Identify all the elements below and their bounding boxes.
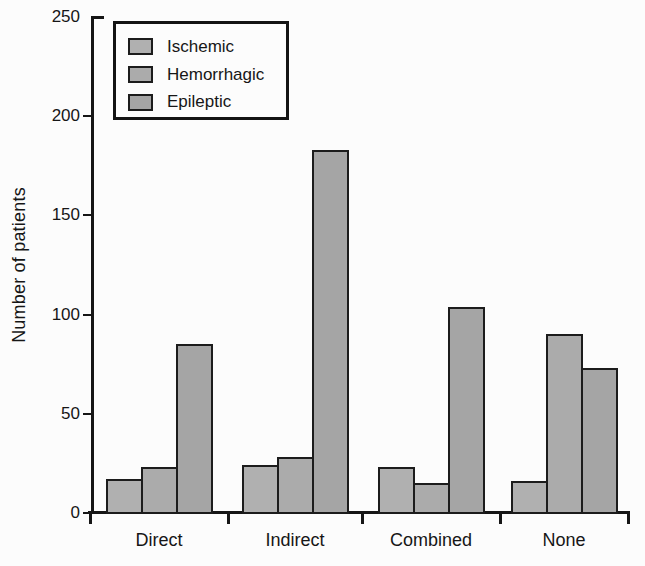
legend-label: Ischemic — [167, 37, 234, 57]
x-tick-label-indirect: Indirect — [230, 529, 360, 551]
bar-epileptic-combined — [448, 307, 485, 514]
y-axis-tick — [83, 413, 91, 415]
x-tick-label-direct: Direct — [94, 529, 224, 551]
bar-ischemic-combined — [378, 467, 415, 514]
legend-swatch-icon — [128, 38, 153, 55]
legend-swatch-icon — [128, 94, 153, 111]
y-axis-top-cap — [91, 16, 104, 19]
y-tick-label: 150 — [34, 205, 80, 225]
bar-ischemic-none — [511, 481, 548, 514]
bar-epileptic-direct — [176, 344, 213, 514]
legend-item-epileptic: Epileptic — [128, 89, 286, 115]
y-tick-label: 50 — [34, 404, 80, 424]
legend: IschemicHemorrhagicEpileptic — [113, 21, 289, 120]
y-axis-tick — [83, 115, 91, 117]
x-axis-tick — [499, 514, 502, 524]
bar-hemorrhagic-indirect — [277, 457, 314, 514]
legend-label: Epileptic — [167, 92, 231, 112]
y-tick-label: 0 — [34, 503, 80, 523]
x-axis-tick — [227, 514, 230, 524]
y-axis-line — [91, 16, 94, 514]
legend-item-hemorrhagic: Hemorrhagic — [128, 62, 286, 88]
x-axis-tick — [627, 514, 630, 524]
x-axis-tick — [89, 514, 92, 524]
bar-hemorrhagic-combined — [413, 483, 450, 514]
bar-epileptic-none — [581, 368, 618, 514]
legend-swatch-icon — [128, 66, 153, 83]
bar-epileptic-indirect — [312, 150, 349, 514]
bar-chart-figure: Number of patients 050100150200250Direct… — [0, 0, 645, 566]
bar-ischemic-direct — [106, 479, 143, 514]
y-tick-label: 250 — [34, 7, 80, 27]
bar-hemorrhagic-none — [546, 334, 583, 514]
y-axis-tick — [83, 214, 91, 216]
bar-ischemic-indirect — [242, 465, 279, 514]
y-axis-tick — [83, 314, 91, 316]
x-tick-label-none: None — [499, 529, 629, 551]
legend-label: Hemorrhagic — [167, 65, 264, 85]
y-tick-label: 200 — [34, 106, 80, 126]
y-tick-label: 100 — [34, 305, 80, 325]
legend-item-ischemic: Ischemic — [128, 34, 286, 60]
y-axis-title: Number of patients — [8, 154, 30, 376]
x-tick-label-combined: Combined — [366, 529, 496, 551]
x-axis-tick — [361, 514, 364, 524]
bar-hemorrhagic-direct — [141, 467, 178, 514]
